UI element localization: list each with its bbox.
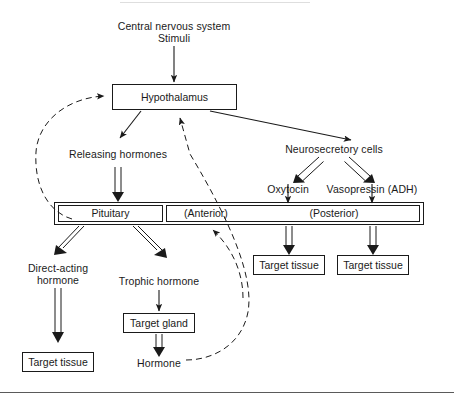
target-gland-label: Target gland — [123, 313, 195, 333]
edge-neurosecretory-to-vasopressin — [345, 157, 376, 183]
edge-direct-acting-to-target-tissue — [52, 288, 64, 343]
edge-pituitary-to-trophic-hormone — [133, 226, 167, 258]
edge-releasing-hormones-to-pituitary — [112, 167, 124, 202]
posterior-label: (Posterior) — [296, 205, 372, 222]
edge-neurosecretory-to-oxytocin — [293, 157, 324, 183]
target-tissue-vasopressin-label: Target tissue — [337, 255, 409, 275]
vasopressin-label: Vasopressin (ADH) — [327, 183, 418, 196]
endocrine-flow-diagram: Central nervous system Stimuli Hypothala… — [0, 0, 454, 407]
edge-hypothalamus-to-neurosecretory-cells — [210, 111, 351, 140]
target-tissue-oxytocin-label: Target tissue — [253, 255, 325, 275]
direct-acting-hormone-label-line1: Direct-acting — [28, 262, 88, 275]
diagram-connectors — [0, 0, 454, 407]
edge-target-gland-to-hormone — [153, 334, 165, 357]
hypothalamus-label: Hypothalamus — [112, 84, 237, 110]
trophic-hormone-label: Trophic hormone — [119, 275, 199, 288]
target-tissue-direct-label: Target tissue — [22, 352, 94, 372]
edge-pituitary-to-direct-acting-hormone — [54, 226, 84, 255]
anterior-label: (Anterior) — [168, 205, 244, 222]
pituitary-label: Pituitary — [58, 205, 163, 222]
releasing-hormones-label: Releasing hormones — [69, 148, 167, 161]
oxytocin-label: Oxytocin — [267, 183, 309, 196]
edge-hypothalamus-to-releasing-hormones — [120, 111, 141, 138]
cns-label-line1: Central nervous system — [118, 20, 231, 33]
edge-feedback-hormone-to-anterior — [213, 230, 243, 298]
neurosecretory-cells-label: Neurosecretory cells — [285, 143, 383, 156]
bottom-divider — [0, 392, 454, 393]
direct-acting-hormone-label-line2: hormone — [37, 274, 79, 287]
edge-posterior-to-target-tissue-1 — [283, 226, 295, 255]
edge-posterior-to-target-tissue-2 — [367, 226, 379, 255]
hormone-label: Hormone — [137, 357, 181, 370]
cns-label-line2: Stimuli — [158, 32, 190, 45]
